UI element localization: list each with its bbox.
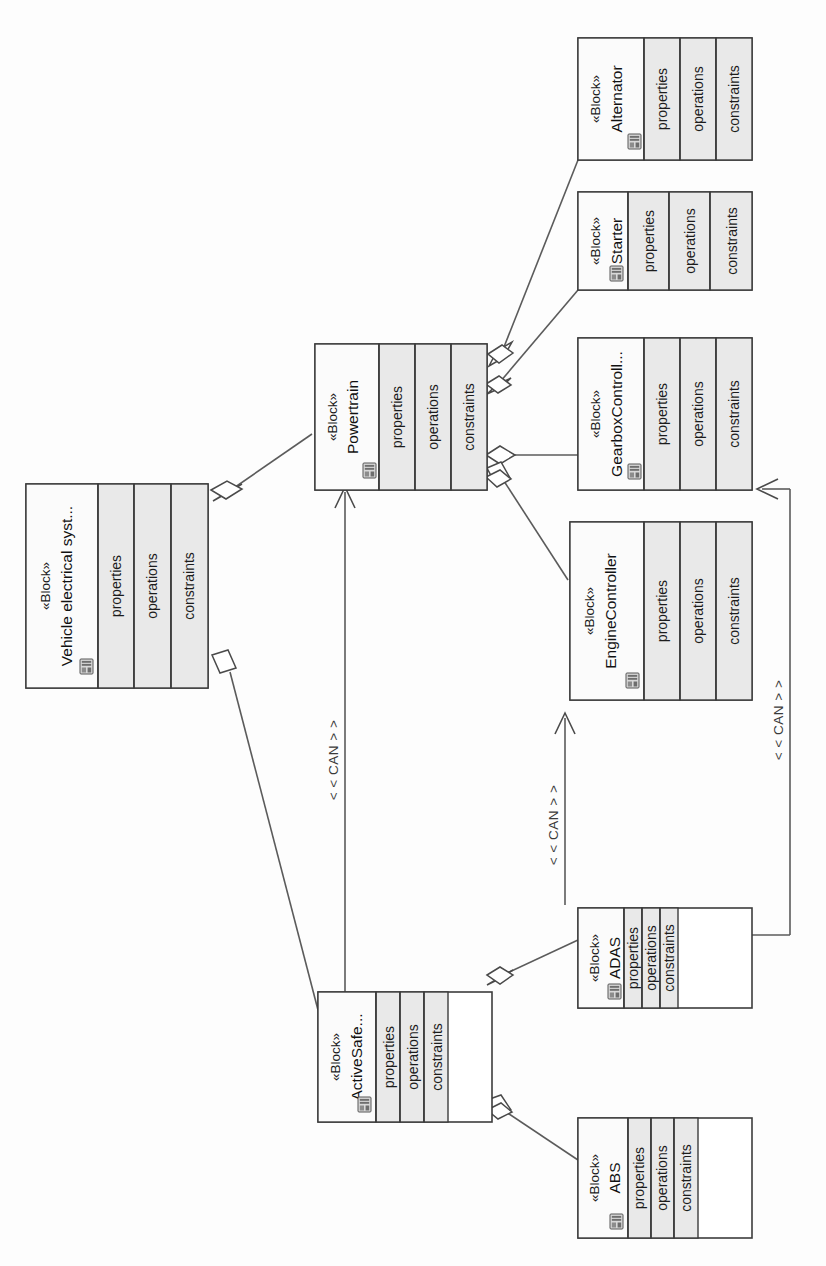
block-stereotype: «Block»: [582, 587, 597, 635]
compartment-properties-label: properties: [654, 580, 670, 642]
block-name: EngineController: [602, 553, 619, 668]
compartment-constraints-label: constraints: [461, 383, 477, 451]
compartment-properties-label: properties: [631, 1147, 647, 1209]
compartment-properties-label: properties: [389, 386, 405, 448]
compartment-constraints-label: constraints: [429, 1023, 445, 1091]
block-name: GearboxControll...: [608, 351, 625, 477]
block-icon: [626, 673, 639, 688]
compartment-constraints-label: constraints: [726, 577, 742, 645]
edge-label-can-activesafety-powertrain: < < CAN > >: [326, 720, 341, 801]
block-stereotype: «Block»: [38, 562, 53, 610]
compartment-operations-label: operations: [690, 381, 706, 446]
edge-powertrain-gearboxcontroller[interactable]: [486, 446, 578, 464]
edge-activesafety-powertrain-can[interactable]: < < CAN > >: [326, 487, 355, 1008]
block-stereotype: «Block»: [325, 393, 340, 441]
compartment-properties-label: properties: [654, 68, 670, 130]
compartment-operations-label: operations: [690, 578, 706, 643]
compartment-operations-label: operations: [425, 384, 441, 449]
compartment-operations-label: operations: [690, 66, 706, 131]
block-stereotype: «Block»: [588, 75, 603, 123]
diagram-canvas[interactable]: Powertrain --> < < CAN > > EngineControl…: [0, 0, 826, 1266]
block-stereotype: «Block»: [328, 1033, 343, 1081]
compartment-constraints-label: constraints: [726, 380, 742, 448]
compartment-constraints-label: constraints: [661, 924, 677, 992]
block-name: ADAS: [606, 937, 623, 979]
compartment-constraints-label: constraints: [726, 65, 742, 133]
compartment-constraints-label: constraints: [724, 207, 740, 275]
compartment-properties-label: properties: [641, 210, 657, 272]
block-name: Starter: [608, 218, 625, 265]
edge-ves-powertrain[interactable]: [211, 434, 312, 501]
block-active-safety[interactable]: «Block» ActiveSafe... properties operati…: [318, 992, 492, 1122]
block-stereotype: «Block»: [587, 1154, 602, 1202]
edge-adas-gearboxcontroller-can[interactable]: < < CAN > >: [750, 479, 790, 935]
block-adas[interactable]: «Block» ADAS properties operations const…: [578, 908, 752, 1008]
compartment-properties-label: properties: [108, 555, 124, 617]
block-name: Powertrain: [344, 380, 361, 454]
compartment-operations-label: operations: [654, 1145, 670, 1210]
edge-activesafety-abs[interactable]: [487, 1095, 578, 1160]
block-powertrain[interactable]: «Block» Powertrain properties operations…: [315, 344, 487, 490]
block-stereotype: «Block»: [588, 217, 603, 265]
block-stereotype: «Block»: [587, 934, 602, 982]
block-icon: [628, 464, 641, 479]
block-starter[interactable]: «Block» Starter properties operations co…: [578, 192, 752, 290]
block-icon: [608, 984, 621, 999]
compartment-operations-label: operations: [405, 1024, 421, 1089]
block-vehicle-electrical-system[interactable]: «Block» Vehicle electrical syst... prope…: [26, 484, 208, 688]
edge-powertrain-alternator[interactable]: [488, 160, 578, 366]
edge-activesafety-adas[interactable]: [487, 940, 578, 985]
block-icon: [610, 1214, 623, 1229]
edge-adas-enginecontroller-can[interactable]: < < CAN > >: [546, 713, 575, 905]
edge-powertrain-starter[interactable]: [486, 290, 578, 394]
block-stereotype: «Block»: [588, 390, 603, 438]
block-icon: [628, 134, 641, 149]
compartment-constraints-label: constraints: [181, 552, 197, 620]
block-abs[interactable]: «Block» ABS properties operations constr…: [578, 1118, 752, 1238]
edge-label-can-adas-gearboxcontroller: < < CAN > >: [771, 680, 786, 761]
block-gearbox-controller[interactable]: «Block» GearboxControll... properties op…: [578, 338, 752, 490]
block-icon: [363, 463, 376, 478]
compartment-properties-label: properties: [625, 927, 641, 989]
edge-ves-activesafety[interactable]: [212, 650, 318, 1010]
block-name: ABS: [606, 1162, 623, 1193]
block-name: Vehicle electrical syst...: [58, 506, 75, 666]
block-icon: [610, 266, 623, 281]
compartment-properties-label: properties: [654, 383, 670, 445]
compartment-constraints-label: constraints: [678, 1144, 694, 1212]
block-definition-diagram: Powertrain --> < < CAN > > EngineControl…: [0, 0, 826, 1266]
compartment-operations-label: operations: [682, 208, 698, 273]
block-alternator[interactable]: «Block» Alternator properties operations…: [578, 38, 752, 160]
block-name: Alternator: [608, 65, 625, 132]
compartment-operations-label: operations: [144, 553, 160, 618]
block-icon: [358, 1097, 371, 1112]
edge-powertrain-enginecontroller[interactable]: [486, 462, 568, 580]
compartment-operations-label: operations: [643, 925, 659, 990]
edge-label-can-adas-enginecontroller: < < CAN > >: [546, 785, 561, 866]
block-icon: [80, 659, 93, 674]
block-engine-controller[interactable]: «Block» EngineController properties oper…: [570, 522, 752, 700]
compartment-properties-label: properties: [381, 1026, 397, 1088]
block-name: ActiveSafe...: [348, 1013, 365, 1100]
